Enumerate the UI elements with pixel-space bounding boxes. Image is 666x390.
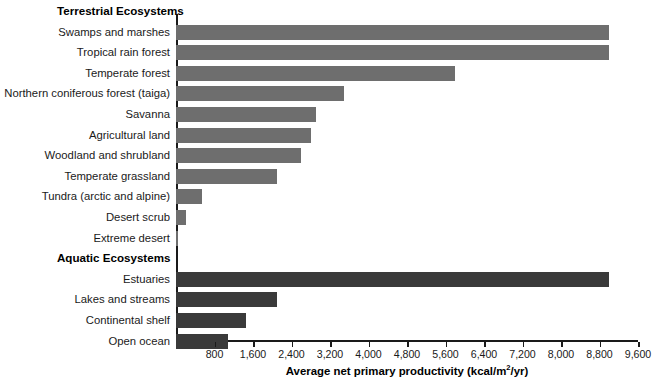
chart-row: Temperate forest [0, 63, 666, 84]
chart-row: Tropical rain forest [0, 42, 666, 63]
category-label: Estuaries [0, 269, 176, 290]
chart-row: Swamps and marshes [0, 22, 666, 43]
chart-row: Woodland and shrubland [0, 145, 666, 166]
group-header-terrestrial: Terrestrial Ecosystems [57, 1, 184, 22]
bar [176, 86, 344, 101]
x-tick [638, 342, 640, 347]
bar [176, 45, 609, 60]
x-axis-title: Average net primary productivity (kcal/m… [176, 363, 638, 377]
group-header-aquatic: Aquatic Ecosystems [57, 248, 170, 269]
chart-row: Desert scrub [0, 207, 666, 228]
bar [176, 231, 178, 246]
bar [176, 25, 609, 40]
category-label: Agricultural land [0, 125, 176, 146]
x-tick [523, 342, 525, 347]
bar [176, 66, 455, 81]
x-tick [407, 342, 409, 347]
category-label: Extreme desert [0, 228, 176, 249]
bar [176, 292, 277, 307]
bar [176, 313, 246, 328]
x-tick [446, 342, 448, 347]
bar [176, 107, 316, 122]
bar [176, 189, 202, 204]
x-axis-title-prefix: Average net primary productivity (kcal/m [286, 365, 507, 377]
category-label: Open ocean [0, 331, 176, 352]
x-tick-label: 6,400 [471, 348, 498, 360]
x-tick-label: 4,000 [355, 348, 382, 360]
x-tick-label: 1,600 [240, 348, 267, 360]
category-label: Desert scrub [0, 207, 176, 228]
bar [176, 148, 301, 163]
category-label: Swamps and marshes [0, 22, 176, 43]
bar [176, 272, 609, 287]
category-label: Tundra (arctic and alpine) [0, 186, 176, 207]
chart-row: Agricultural land [0, 125, 666, 146]
chart-row: Continental shelf [0, 310, 666, 331]
chart-row: Savanna [0, 104, 666, 125]
x-tick [484, 342, 486, 347]
chart-row: Temperate grassland [0, 166, 666, 187]
category-label: Temperate forest [0, 63, 176, 84]
bar [176, 334, 228, 349]
category-label: Lakes and streams [0, 289, 176, 310]
x-tick [253, 342, 255, 347]
x-tick-label: 9,600 [625, 348, 652, 360]
chart-row: Northern coniferous forest (taiga) [0, 83, 666, 104]
x-tick [600, 342, 602, 347]
category-label: Woodland and shrubland [0, 145, 176, 166]
productivity-bar-chart: Terrestrial EcosystemsSwamps and marshes… [0, 0, 666, 390]
category-label: Tropical rain forest [0, 42, 176, 63]
x-tick-label: 5,600 [432, 348, 459, 360]
x-tick-label: 3,200 [317, 348, 344, 360]
category-label: Northern coniferous forest (taiga) [0, 83, 176, 104]
chart-row: Extreme desert [0, 228, 666, 249]
bar [176, 169, 277, 184]
x-tick-label: 800 [206, 348, 224, 360]
x-axis-title-suffix: /yr) [511, 365, 529, 377]
x-tick [369, 342, 371, 347]
x-tick-label: 8,800 [586, 348, 613, 360]
category-label: Continental shelf [0, 310, 176, 331]
bar [176, 210, 186, 225]
x-tick [561, 342, 563, 347]
x-tick [292, 342, 294, 347]
x-tick-label: 2,400 [278, 348, 305, 360]
x-tick [330, 342, 332, 347]
bar [176, 128, 311, 143]
x-tick-label: 4,800 [394, 348, 421, 360]
x-tick [215, 342, 217, 347]
chart-row: Estuaries [0, 269, 666, 290]
chart-row: Tundra (arctic and alpine) [0, 186, 666, 207]
chart-row: Lakes and streams [0, 289, 666, 310]
x-tick-label: 7,200 [509, 348, 536, 360]
x-tick-label: 8,000 [548, 348, 575, 360]
category-label: Savanna [0, 104, 176, 125]
category-label: Temperate grassland [0, 166, 176, 187]
